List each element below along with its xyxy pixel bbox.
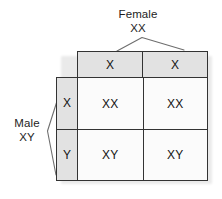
punnett-grid: XX XX XY XY: [77, 77, 208, 181]
punnett-cell-r0c1: XX: [143, 78, 208, 129]
female-label-line-1: Female: [98, 8, 178, 22]
male-label-line-2: XY: [2, 131, 52, 145]
female-parent-label: Female XX: [98, 8, 178, 35]
caret-down-bracket-icon: [117, 38, 184, 52]
column-header-0: X: [78, 52, 142, 77]
male-parent-label: Male XY: [2, 117, 52, 144]
row-header-1: Y: [57, 129, 77, 181]
row-header-column: X Y: [56, 77, 78, 181]
male-label-line-1: Male: [2, 117, 52, 131]
column-header-row: X X: [77, 51, 208, 78]
column-header-1: X: [142, 52, 207, 77]
punnett-cell-r1c0: XY: [78, 129, 143, 180]
row-header-0: X: [57, 78, 77, 129]
punnett-square-diagram: Female XX Male XY X X X Y XX XX XY XY: [0, 0, 222, 199]
punnett-cell-r1c1: XY: [143, 129, 208, 180]
punnett-cell-r0c0: XX: [78, 78, 143, 129]
female-label-line-2: XX: [98, 22, 178, 36]
